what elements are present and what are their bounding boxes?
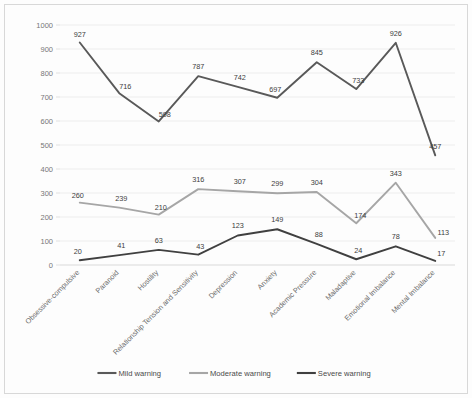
data-label: 88: [315, 230, 323, 239]
x-axis-label: Maladaptive: [323, 268, 357, 302]
data-labels-group: 9277165987877426978457339264572602392103…: [72, 29, 449, 258]
series-line-moderate-warning: [80, 183, 436, 238]
y-axis-tick-label: 0: [49, 261, 53, 270]
data-label: 41: [117, 241, 125, 250]
data-label: 17: [437, 249, 445, 258]
data-label: 343: [390, 169, 402, 178]
line-chart-svg: 01002003004005006007008009001000 9277165…: [0, 0, 472, 398]
data-label: 63: [155, 236, 163, 245]
legend-label[interactable]: Severe warning: [318, 369, 371, 378]
series-line-mild-warning: [80, 43, 436, 156]
series-group: [80, 43, 436, 261]
data-label: 316: [192, 175, 204, 184]
data-label: 20: [74, 247, 82, 256]
y-axis-tick-label: 600: [40, 117, 53, 126]
legend-group: Mild warningModerate warningSevere warni…: [97, 369, 370, 378]
chart-container: 01002003004005006007008009001000 9277165…: [0, 0, 472, 398]
data-label: 457: [429, 142, 441, 151]
x-axis-label: Obsessive-compulsive: [23, 268, 81, 326]
series-line-severe-warning: [80, 229, 436, 261]
data-label: 113: [437, 228, 449, 237]
data-label: 123: [232, 221, 244, 230]
legend-label[interactable]: Mild warning: [118, 369, 161, 378]
x-axis-label: Paranoid: [94, 268, 121, 295]
y-axis-tick-label: 200: [40, 213, 53, 222]
data-label: 733: [352, 76, 364, 85]
data-label: 742: [234, 73, 246, 82]
y-axis-tick-label: 800: [40, 69, 53, 78]
x-axis-label: Mental Imbalance: [390, 268, 437, 315]
x-axis-label: Relationship Tension and Sensitivity: [111, 268, 200, 357]
legend-label[interactable]: Moderate warning: [210, 369, 271, 378]
data-label: 716: [119, 82, 131, 91]
data-label: 210: [155, 203, 167, 212]
y-axis-tick-label: 900: [40, 45, 53, 54]
data-label: 787: [192, 62, 204, 71]
data-label: 239: [115, 194, 127, 203]
data-label: 598: [159, 110, 171, 119]
y-axis-tick-label: 300: [40, 189, 53, 198]
data-label: 926: [390, 29, 402, 38]
data-label: 24: [354, 246, 362, 255]
data-label: 697: [269, 85, 281, 94]
y-axis-tick-label: 500: [40, 141, 53, 150]
x-axis-label: Anxiety: [255, 268, 279, 292]
y-axis-tick-label: 100: [40, 237, 53, 246]
data-label: 78: [392, 232, 400, 241]
x-axis-labels-group: Obsessive-compulsiveParanoidHostilityRel…: [23, 268, 436, 357]
data-label: 43: [196, 242, 204, 251]
y-axis-ticks-group: 01002003004005006007008009001000: [36, 21, 60, 270]
data-label: 299: [271, 179, 283, 188]
data-label: 845: [311, 48, 323, 57]
y-axis-tick-label: 400: [40, 165, 53, 174]
y-axis-tick-label: 1000: [36, 21, 53, 30]
data-label: 149: [271, 215, 283, 224]
gridlines-group: [60, 25, 455, 265]
data-label: 260: [72, 191, 84, 200]
data-label: 927: [74, 30, 86, 39]
x-axis-label: Depression: [207, 268, 239, 300]
data-label: 307: [234, 177, 246, 186]
x-axis-label: Hostility: [136, 268, 161, 293]
data-label: 304: [311, 178, 323, 187]
data-label: 174: [354, 211, 366, 220]
y-axis-tick-label: 700: [40, 93, 53, 102]
